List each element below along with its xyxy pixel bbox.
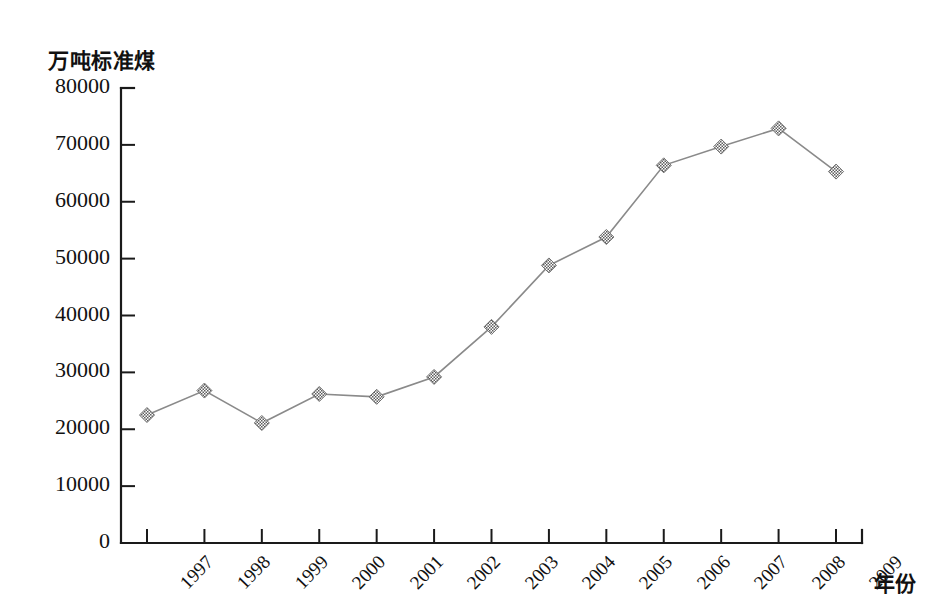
y-axis-title: 万吨标准煤: [48, 44, 156, 74]
y-axis-tick-label: 20000: [0, 414, 110, 440]
y-axis-tick-label: 0: [0, 528, 110, 554]
y-axis-tick-label: 50000: [0, 244, 110, 270]
plot-background: [0, 0, 932, 616]
y-axis-tick-label: 10000: [0, 471, 110, 497]
y-axis-tick-label: 30000: [0, 357, 110, 383]
y-axis-tick-label: 60000: [0, 187, 110, 213]
y-axis-tick-label: 70000: [0, 130, 110, 156]
chart-figure: 万吨标准煤 年份 0100002000030000400005000060000…: [0, 0, 932, 616]
y-axis-tick-label: 40000: [0, 301, 110, 327]
chart-plot-svg: [0, 0, 932, 616]
y-axis-tick-label: 80000: [0, 73, 110, 99]
